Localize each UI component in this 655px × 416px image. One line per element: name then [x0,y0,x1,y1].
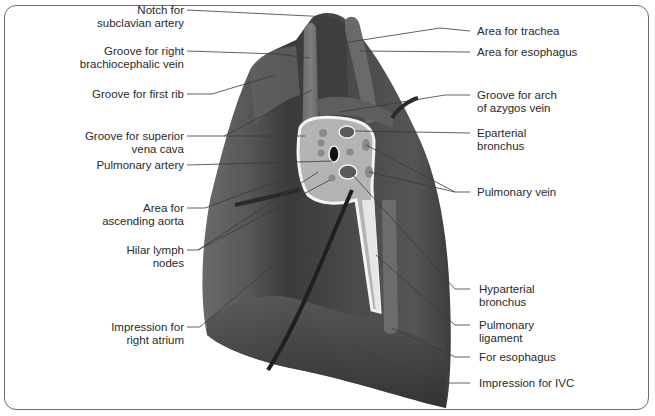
label-impression-right-atrium: Impression for right atrium [111,321,184,347]
label-area-esophagus: Area for esophagus [477,46,577,59]
lymph-node [318,140,325,147]
label-impression-ivc: Impression for IVC [479,377,574,390]
lymph-node [319,129,327,137]
pulmonary-artery-shape [329,146,339,162]
lymph-node [318,150,325,157]
label-groove-superior-vena-cava: Groove for superior vena cava [85,130,184,156]
label-hilar-lymph-nodes: Hilar lymph nodes [126,244,184,270]
eparterial-bronchus-shape [339,126,355,138]
label-hyparterial-bronchus: Hyparterial bronchus [479,283,535,309]
label-pulmonary-vein: Pulmonary vein [477,186,556,199]
label-pulmonary-artery: Pulmonary artery [96,159,184,172]
label-for-esophagus: For esophagus [479,351,556,364]
label-eparterial-bronchus: Eparterial bronchus [477,127,526,153]
label-groove-arch-azygos-vein: Groove for arch of azygos vein [477,89,557,115]
label-notch-subclavian-artery: Notch for subclavian artery [97,4,184,30]
label-pulmonary-ligament: Pulmonary ligament [479,319,534,345]
label-groove-right-brachiocephalic-vein: Groove for right brachiocephalic vein [80,45,184,71]
lymph-node [347,149,354,156]
label-area-trachea: Area for trachea [477,25,559,38]
trachea-area [316,18,348,102]
label-area-ascending-aorta: Area for ascending aorta [102,202,184,228]
label-groove-first-rib: Groove for first rib [92,88,184,101]
